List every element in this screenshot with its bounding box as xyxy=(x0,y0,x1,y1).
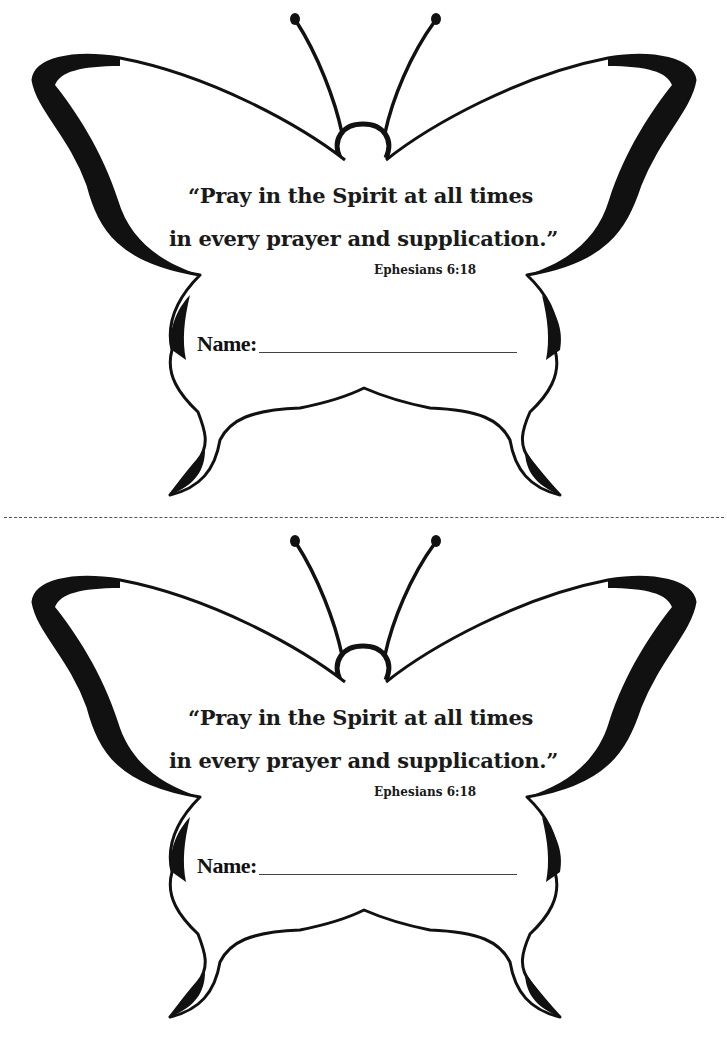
name-label: Name: xyxy=(197,331,257,357)
cut-line-divider xyxy=(4,517,724,518)
verse-line-2: in every prayer and supplication.” xyxy=(0,748,727,773)
name-blank-line[interactable] xyxy=(259,352,517,353)
name-blank-line[interactable] xyxy=(259,874,517,875)
verse-line-1: “Pray in the Spirit at all times xyxy=(0,183,724,208)
name-label: Name: xyxy=(197,853,257,879)
verse-line-1: “Pray in the Spirit at all times xyxy=(0,705,724,730)
butterfly-card-2: “Pray in the Spirit at all times in ever… xyxy=(0,522,727,1032)
verse-reference: Ephesians 6:18 xyxy=(374,263,476,277)
name-field-row: Name: xyxy=(197,853,517,879)
butterfly-outline-icon xyxy=(0,522,727,1032)
butterfly-card-1: “Pray in the Spirit at all times in ever… xyxy=(0,0,727,510)
butterfly-outline-icon xyxy=(0,0,727,510)
verse-line-2: in every prayer and supplication.” xyxy=(0,226,727,251)
name-field-row: Name: xyxy=(197,331,517,357)
verse-reference: Ephesians 6:18 xyxy=(374,785,476,799)
